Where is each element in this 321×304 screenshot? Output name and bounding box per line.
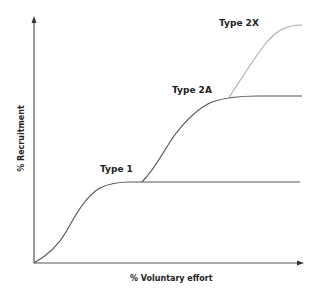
y-axis-label: % Recruitment	[17, 99, 26, 179]
y-axis-arrow-icon	[32, 16, 37, 23]
type1-label: Type 1	[100, 164, 133, 174]
type1-curve	[34, 182, 300, 263]
x-axis-label: % Voluntary effort	[130, 274, 213, 283]
type2x-label: Type 2X	[219, 18, 259, 28]
recruitment-chart	[0, 0, 321, 304]
type2a-label: Type 2A	[172, 85, 212, 95]
x-axis-arrow-icon	[297, 261, 304, 266]
type2a-curve	[142, 96, 302, 182]
type2x-curve	[228, 25, 302, 99]
